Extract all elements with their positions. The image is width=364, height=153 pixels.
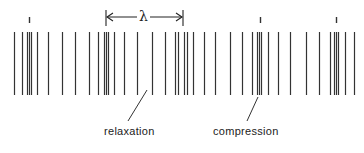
- relaxation-label: relaxation: [104, 125, 155, 137]
- longitudinal-wave-diagram: [0, 0, 364, 153]
- wavelength-symbol: λ: [137, 9, 150, 23]
- compression-pointer: [247, 97, 258, 121]
- wave-lines: [15, 32, 355, 95]
- compression-label: compression: [213, 125, 279, 137]
